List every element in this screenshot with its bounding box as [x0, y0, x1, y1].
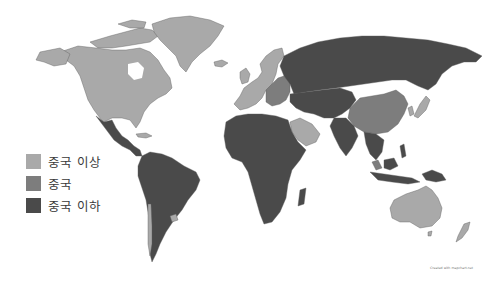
- region-south-america: [138, 152, 200, 262]
- region-north-america: [60, 46, 172, 128]
- region-uk: [240, 68, 250, 84]
- region-caribbean: [136, 133, 152, 138]
- legend-item-china: 중국: [26, 172, 101, 194]
- swatch-china: [26, 176, 41, 191]
- region-australia: [390, 186, 442, 228]
- legend-label: 중국 이하: [48, 196, 101, 215]
- region-china: [348, 90, 408, 134]
- swatch-above-china: [26, 154, 41, 169]
- region-arctic-islands: [118, 20, 146, 28]
- region-malaysia: [372, 160, 382, 170]
- region-southeast-asia: [364, 132, 384, 160]
- region-chile: [148, 204, 152, 256]
- region-canada-arctic: [90, 28, 158, 48]
- region-tasmania: [428, 231, 432, 236]
- legend-item-above-china: 중국 이상: [26, 150, 101, 172]
- region-new-guinea: [422, 170, 446, 182]
- region-borneo: [384, 158, 398, 170]
- region-philippines: [400, 144, 406, 158]
- region-korea: [408, 106, 414, 116]
- legend-label: 중국: [48, 174, 72, 193]
- legend-item-below-china: 중국 이하: [26, 194, 101, 216]
- legend-label: 중국 이상: [48, 152, 101, 171]
- legend: 중국 이상 중국 중국 이하: [26, 150, 101, 216]
- region-madagascar: [298, 188, 306, 206]
- region-iceland: [214, 60, 228, 67]
- swatch-below-china: [26, 198, 41, 213]
- region-indonesia: [370, 172, 420, 184]
- region-new-zealand: [456, 222, 470, 242]
- world-map: [0, 0, 503, 286]
- credit-watermark: Created with mapchart.net: [430, 266, 473, 270]
- region-russia: [280, 36, 482, 94]
- region-greenland: [152, 16, 224, 72]
- region-japan: [414, 96, 430, 118]
